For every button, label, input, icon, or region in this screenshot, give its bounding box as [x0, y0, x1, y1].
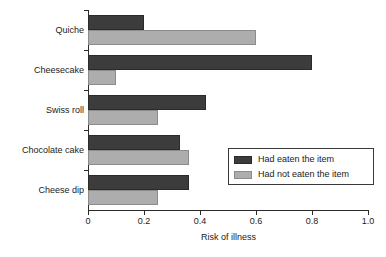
y-axis-tick — [84, 10, 88, 11]
bar — [88, 190, 158, 205]
x-axis-tick-label: 0 — [85, 216, 90, 227]
x-axis-tick-label: 0.8 — [306, 216, 319, 227]
x-axis-tick — [368, 211, 369, 215]
bar — [88, 135, 180, 150]
category-label: Quiche — [55, 25, 84, 36]
legend-swatch-not-eaten-icon — [234, 171, 252, 179]
x-axis-tick-label: 0.6 — [250, 216, 263, 227]
bar — [88, 70, 116, 85]
bar — [88, 55, 312, 70]
y-axis-tick — [84, 170, 88, 171]
x-axis-line — [88, 210, 369, 211]
x-axis-tick — [256, 211, 257, 215]
y-axis-tick — [84, 130, 88, 131]
category-label: Cheesecake — [34, 65, 84, 76]
chart-legend: Had eaten the item Had not eaten the ite… — [228, 148, 374, 185]
bar — [88, 15, 144, 30]
y-axis-tick — [84, 90, 88, 91]
legend-label-eaten: Had eaten the item — [258, 154, 334, 165]
bar — [88, 175, 189, 190]
y-axis-tick — [84, 50, 88, 51]
bar — [88, 150, 189, 165]
bar — [88, 110, 158, 125]
x-axis-tick-label: 0.4 — [194, 216, 207, 227]
legend-item-not-eaten: Had not eaten the item — [234, 168, 368, 181]
bar-chart: QuicheCheesecakeSwiss rollChocolate cake… — [0, 0, 386, 257]
category-label: Chocolate cake — [22, 145, 84, 156]
category-label: Swiss roll — [46, 105, 84, 116]
legend-label-not-eaten: Had not eaten the item — [258, 169, 349, 180]
legend-swatch-eaten-icon — [234, 156, 252, 164]
x-axis-tick-label: 0.2 — [138, 216, 151, 227]
x-axis-tick-label: 1.0 — [362, 216, 375, 227]
category-label: Cheese dip — [38, 185, 84, 196]
legend-item-eaten: Had eaten the item — [234, 153, 368, 166]
x-axis-title: Risk of illness — [88, 232, 369, 243]
x-axis-tick — [200, 211, 201, 215]
x-axis-tick — [312, 211, 313, 215]
bar — [88, 30, 256, 45]
x-axis-tick — [88, 211, 89, 215]
x-axis-tick — [144, 211, 145, 215]
bar — [88, 95, 206, 110]
